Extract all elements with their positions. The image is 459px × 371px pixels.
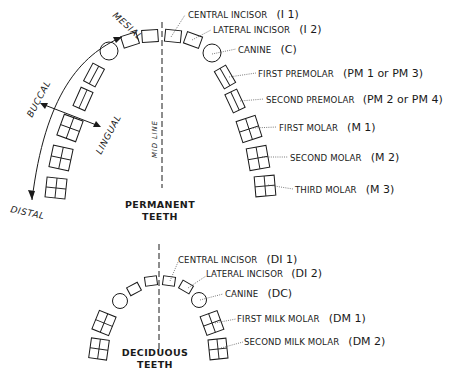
label-second-premolar: SECOND PREMOLAR (PM 2 or PM 4) [266, 88, 443, 107]
tooth-third-molar-left [45, 177, 67, 199]
tooth-dc-right [192, 293, 207, 308]
dental-arch-diagram: MID LINE [0, 0, 459, 371]
permanent-title-line2: TEETH [142, 211, 178, 222]
label-dc: CANINE (DC) [225, 282, 292, 301]
tooth-dm2-left [89, 338, 110, 360]
tooth-second-premolar-left [73, 87, 93, 111]
label-first-premolar: FIRST PREMOLAR (PM 1 or PM 3) [258, 62, 423, 81]
tooth-dm1-left [92, 310, 116, 335]
tooth-second-premolar-right [225, 89, 245, 113]
leader-first-premolar [229, 73, 256, 77]
deciduous-arch: CENTRAL INCISOR (DI 1) LATERAL INCISOR (… [89, 244, 386, 370]
permanent-arch: MID LINE [45, 3, 443, 222]
tooth-dc-left [113, 294, 128, 309]
label-dm2: SECOND MILK MOLAR (DM 2) [244, 330, 385, 349]
tooth-first-premolar-right [214, 65, 235, 89]
tooth-di2-right [179, 280, 194, 294]
tooth-lateral-incisor-right [183, 32, 202, 49]
tooth-canine-left [100, 42, 118, 60]
label-third-molar: THIRD MOLAR (M 3) [294, 178, 394, 197]
label-second-molar: SECOND MOLAR (M 2) [290, 146, 399, 165]
lingual-label: LINGUAL [94, 113, 123, 156]
tooth-second-molar-right [246, 145, 270, 170]
deciduous-title-line2: TEETH [137, 359, 173, 370]
label-canine: CANINE (C) [238, 38, 297, 57]
midline-label: MID LINE [151, 120, 159, 158]
distal-arrowhead [28, 190, 35, 200]
label-di1: CENTRAL INCISOR (DI 1) [178, 248, 297, 267]
tooth-di1-left [144, 276, 157, 287]
tooth-second-molar-left [49, 145, 73, 171]
tooth-canine-right [203, 44, 221, 62]
tooth-first-premolar-left [84, 63, 105, 87]
label-central-incisor: CENTRAL INCISOR (I 1) [188, 3, 299, 22]
tooth-di2-left [127, 282, 142, 296]
label-dm1: FIRST MILK MOLAR (DM 1) [237, 307, 366, 326]
tooth-di1-right [162, 276, 175, 287]
buccal-label: BUCCAL [25, 79, 53, 119]
deciduous-title-line1: DECIDUOUS [122, 347, 189, 358]
tooth-central-incisor-left [142, 29, 159, 42]
tooth-central-incisor-right [164, 29, 181, 43]
tooth-dm1-right [200, 311, 224, 336]
label-first-molar: FIRST MOLAR (M 1) [279, 116, 376, 135]
mesial-arrowhead [113, 37, 122, 43]
tooth-dm2-right [208, 338, 228, 360]
distal-label: DISTAL [10, 204, 46, 221]
leader-second-premolar [240, 99, 264, 101]
tooth-first-molar-right [236, 115, 262, 142]
permanent-title-line1: PERMANENT [125, 199, 195, 210]
